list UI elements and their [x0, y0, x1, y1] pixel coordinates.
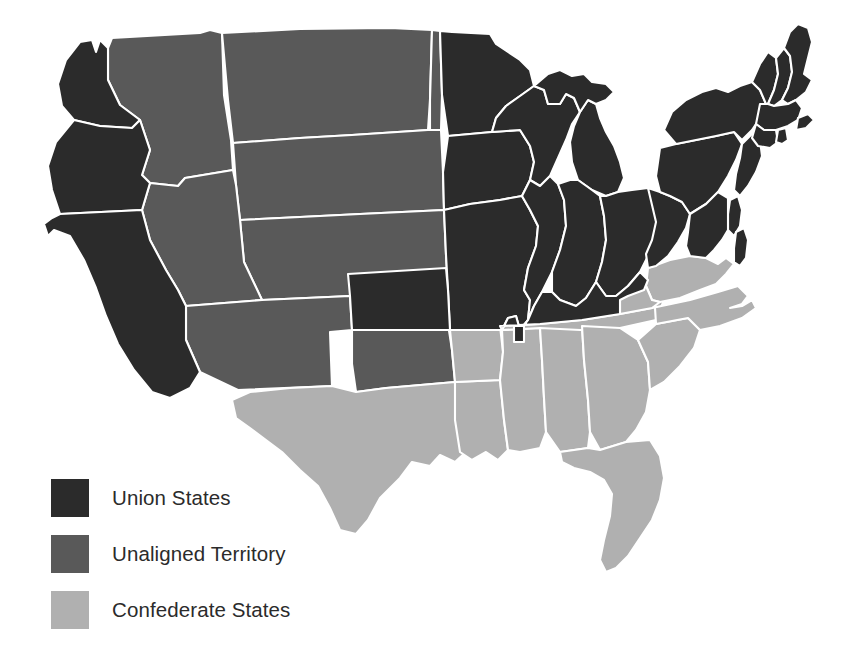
civil-war-map-figure: Union States Unaligned Territory Confede…	[0, 0, 843, 666]
region-florida[interactable]	[560, 440, 664, 572]
region-oregon[interactable]	[48, 120, 150, 214]
region-rhode-island[interactable]	[776, 128, 788, 144]
region-montana-dakota-territory[interactable]	[222, 28, 432, 143]
map-legend: Union States Unaligned Territory Confede…	[51, 470, 381, 638]
legend-label-confederate: Confederate States	[112, 600, 290, 621]
region-kansas[interactable]	[348, 268, 450, 330]
region-nebraska-territory[interactable]	[233, 130, 444, 220]
legend-item-confederate[interactable]: Confederate States	[51, 582, 381, 638]
legend-label-unaligned: Unaligned Territory	[112, 544, 286, 565]
region-maryland-eastern-shore[interactable]	[734, 228, 748, 266]
legend-swatch-unaligned	[51, 535, 89, 573]
region-indian-territory[interactable]	[352, 324, 455, 392]
region-missouri[interactable]	[444, 196, 538, 330]
region-massachusetts[interactable]	[756, 100, 802, 130]
region-louisiana[interactable]	[455, 380, 508, 460]
region-mississippi[interactable]	[500, 328, 546, 452]
legend-swatch-union	[51, 479, 89, 517]
legend-label-union: Union States	[112, 488, 231, 509]
legend-swatch-confederate	[51, 591, 89, 629]
region-arkansas[interactable]	[450, 326, 503, 382]
legend-item-unaligned[interactable]: Unaligned Territory	[51, 526, 381, 582]
legend-item-union[interactable]: Union States	[51, 470, 381, 526]
region-arizona-new-mexico-territory[interactable]	[186, 296, 352, 390]
region-missouri-bootheel[interactable]	[514, 326, 524, 342]
